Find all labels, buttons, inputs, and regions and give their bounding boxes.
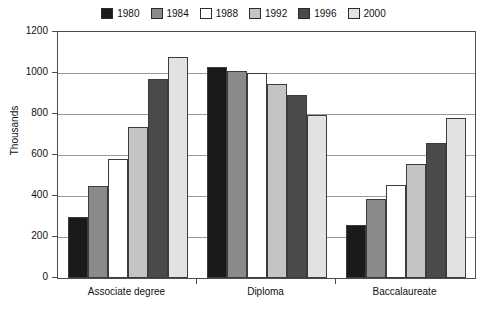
legend-label: 1992 — [265, 8, 287, 19]
legend-label: 1984 — [167, 8, 189, 19]
legend-swatch-icon — [101, 8, 113, 19]
legend-swatch-icon — [200, 8, 212, 19]
y-tick-label: 1000 — [8, 67, 48, 77]
legend-item[interactable]: 2000 — [348, 8, 386, 19]
y-tick-label: 200 — [8, 231, 48, 241]
y-tick-label: 600 — [8, 149, 48, 159]
bar-2000-associate-degree[interactable] — [168, 57, 188, 278]
bar-1992-diploma[interactable] — [267, 84, 287, 278]
bar-1992-associate-degree[interactable] — [128, 127, 148, 278]
bar-1980-diploma[interactable] — [207, 67, 227, 278]
bar-group — [207, 32, 327, 278]
legend-item[interactable]: 1988 — [200, 8, 238, 19]
legend-label: 1996 — [314, 8, 336, 19]
legend-item[interactable]: 1984 — [151, 8, 189, 19]
x-axis-category-label: Diploma — [196, 286, 335, 298]
x-tick-mark — [335, 278, 336, 284]
y-tick-label: 0 — [8, 272, 48, 282]
bar-1984-associate-degree[interactable] — [88, 186, 108, 278]
bar-chart: 198019841988199219962000 Thousands 02004… — [0, 0, 487, 310]
bar-1980-baccalaureate[interactable] — [346, 225, 366, 278]
legend-label: 1988 — [216, 8, 238, 19]
legend-item[interactable]: 1996 — [298, 8, 336, 19]
bar-1988-diploma[interactable] — [247, 73, 267, 278]
x-tick-mark — [196, 278, 197, 284]
bar-1988-associate-degree[interactable] — [108, 159, 128, 278]
y-tick-label: 400 — [8, 190, 48, 200]
bar-1992-baccalaureate[interactable] — [406, 164, 426, 278]
y-tick-label: 800 — [8, 108, 48, 118]
bar-2000-baccalaureate[interactable] — [446, 118, 466, 278]
legend-item[interactable]: 1980 — [101, 8, 139, 19]
bar-1984-baccalaureate[interactable] — [366, 199, 386, 278]
bar-group — [346, 32, 466, 278]
legend-label: 1980 — [117, 8, 139, 19]
chart-legend: 198019841988199219962000 — [0, 8, 487, 19]
bar-1988-baccalaureate[interactable] — [386, 185, 406, 278]
bar-1996-associate-degree[interactable] — [148, 79, 168, 278]
bar-2000-diploma[interactable] — [307, 115, 327, 278]
legend-label: 2000 — [364, 8, 386, 19]
legend-swatch-icon — [151, 8, 163, 19]
bar-1996-baccalaureate[interactable] — [426, 143, 446, 278]
legend-swatch-icon — [298, 8, 310, 19]
x-axis-category-label: Baccalaureate — [335, 286, 474, 298]
bar-1984-diploma[interactable] — [227, 71, 247, 278]
legend-swatch-icon — [249, 8, 261, 19]
legend-swatch-icon — [348, 8, 360, 19]
bar-group — [68, 32, 188, 278]
bar-1996-diploma[interactable] — [287, 95, 307, 278]
plot-area — [57, 31, 476, 279]
x-axis-category-label: Associate degree — [57, 286, 196, 298]
y-tick-label: 1200 — [8, 26, 48, 36]
legend-item[interactable]: 1992 — [249, 8, 287, 19]
bar-1980-associate-degree[interactable] — [68, 217, 88, 279]
